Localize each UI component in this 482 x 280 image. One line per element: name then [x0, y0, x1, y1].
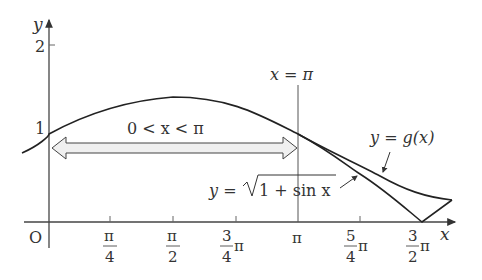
svg-text:4: 4: [222, 248, 232, 266]
origin-label: O: [29, 228, 42, 247]
x-tick-labels: π 4 π 2 3 4 π π 5 4 π 3 2 π: [103, 227, 430, 266]
svg-text:π: π: [358, 237, 368, 255]
svg-text:2: 2: [408, 248, 418, 266]
svg-text:π: π: [167, 227, 177, 245]
svg-text:π: π: [292, 229, 302, 247]
svg-text:2: 2: [168, 248, 178, 266]
x-ticks: [110, 216, 360, 222]
y-tick-1: 1: [35, 119, 45, 138]
g-pointer-arrow: [383, 152, 390, 172]
y-tick-2: 2: [35, 37, 45, 56]
interval-double-arrow: [52, 137, 297, 159]
f-curve-label-prefix: y =: [208, 181, 237, 200]
vline-label: x = π: [270, 65, 314, 84]
chart: y x O 2 1 x = π 0 < x < π y = g(x) y = 1…: [0, 0, 482, 280]
svg-text:4: 4: [346, 248, 356, 266]
svg-text:π: π: [104, 227, 114, 245]
f-curve-label-body: 1 + sin x: [259, 181, 331, 200]
svg-text:π: π: [420, 237, 430, 255]
svg-text:5: 5: [346, 227, 356, 245]
x-axis-label: x: [440, 224, 450, 244]
interval-label: 0 < x < π: [127, 119, 204, 138]
svg-text:3: 3: [222, 227, 232, 245]
svg-text:π: π: [234, 237, 244, 255]
f-pointer-arrow: [340, 176, 357, 188]
svg-text:3: 3: [408, 227, 418, 245]
g-curve-label: y = g(x): [369, 128, 434, 147]
svg-text:4: 4: [105, 248, 115, 266]
y-axis-label: y: [32, 14, 43, 34]
